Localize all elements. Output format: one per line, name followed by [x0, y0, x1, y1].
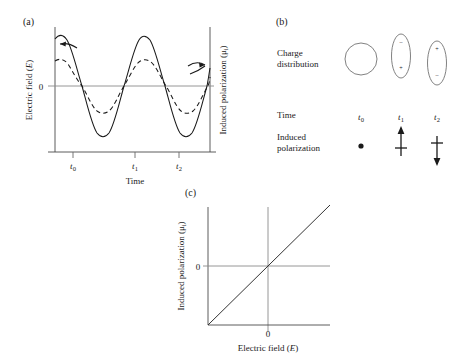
induced-polarization-arrow-up-t1	[395, 126, 407, 156]
panel-b-column-t1: – + t1	[392, 34, 411, 156]
panel-b-column-t0: t0	[345, 43, 377, 149]
induced-polarization-dot-t0	[358, 143, 363, 148]
panel-c-ylabel: Induced polarization (μi)	[176, 221, 187, 310]
panel-a-tick-label-t0: t0	[70, 161, 76, 172]
panel-b-row-label-time: Time	[277, 110, 296, 120]
panel-a-label: (a)	[23, 16, 34, 28]
figure-root: (a) 0 t0 t1 t2 Time Electric field (E) I…	[0, 0, 462, 359]
panel-c-x-zero-label: 0	[266, 329, 271, 339]
panel-b-label: (b)	[276, 16, 288, 28]
charge-distribution-shape-t0	[345, 43, 377, 75]
panel-a-arrow-right	[188, 63, 205, 75]
panel-a-tick-label-t1: t1	[132, 161, 138, 172]
panel-a: (a) 0 t0 t1 t2 Time Electric field (E) I…	[23, 16, 229, 186]
panel-a-xlabel: Time	[126, 176, 145, 186]
panel-a-ylabel-right: Induced polarization (μi)	[218, 45, 229, 134]
panel-b-row-label-induced-polarization-line2: polarization	[277, 143, 320, 153]
panel-b-time-label-t2: t2	[434, 112, 440, 123]
panel-b-time-label-t1: t1	[398, 112, 404, 123]
panel-c: (c) 0 0 Induced polarization (μi) Electr…	[176, 187, 330, 353]
charge-sign-top-t1: –	[399, 39, 404, 45]
induced-polarization-arrow-down-t2	[431, 136, 443, 166]
panel-a-zero-label: 0	[39, 82, 44, 92]
panel-a-ylabel-left: Electric field (E)	[24, 60, 34, 120]
panel-c-xlabel: Electric field (E)	[238, 343, 298, 353]
charge-sign-top-t2: +	[435, 46, 439, 52]
panel-a-tick-label-t2: t2	[176, 161, 182, 172]
panel-b-column-t2: + – t2	[428, 41, 447, 166]
panel-c-label: (c)	[185, 187, 196, 199]
panel-b-row-label-charge-distribution-line2: distribution	[277, 59, 319, 69]
panel-b-time-label-t0: t0	[358, 112, 364, 123]
charge-sign-bottom-t1: +	[399, 65, 403, 71]
panel-b-row-label-induced-polarization-line1: Induced	[277, 132, 306, 142]
panel-c-y-zero-label: 0	[196, 262, 201, 272]
panel-b-row-label-charge-distribution-line1: Charge	[277, 48, 303, 58]
charge-sign-bottom-t2: –	[435, 72, 440, 78]
panel-b: (b) Charge distribution Time Induced pol…	[276, 16, 447, 166]
panel-c-linear-curve	[208, 205, 330, 325]
